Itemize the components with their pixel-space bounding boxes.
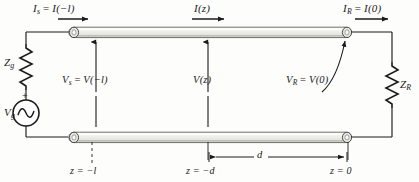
load-voltage-expression: V(0) — [309, 74, 328, 85]
source-impedance-zigzag — [20, 44, 32, 90]
line-current-expression: (z) — [198, 2, 210, 14]
source-current-equals: = — [40, 2, 52, 14]
load-impedance-subscript: R — [406, 83, 411, 92]
coord-d-label: z = −d — [186, 166, 215, 176]
source-emf-symbol: V — [4, 106, 11, 118]
source-emf-subscript: g — [11, 111, 15, 120]
line-current-label: I(z) — [194, 3, 210, 14]
line-voltage-label: V(z) — [193, 75, 211, 86]
source-current-expression: I(−l) — [52, 2, 74, 14]
source-impedance-label: Zg — [4, 57, 14, 70]
dimension-d-label: d — [257, 150, 262, 161]
line-voltage-symbol: V — [193, 74, 200, 85]
source-top-wire — [26, 32, 70, 44]
load-current-label: IR = I(0) — [343, 3, 381, 16]
source-impedance-subscript: g — [10, 61, 14, 70]
load-bottom-wire — [351, 108, 392, 137]
load-voltage-label: VR = V(0) — [286, 75, 329, 87]
load-current-equals: = — [352, 2, 364, 14]
load-impedance-label: ZR — [400, 79, 411, 92]
source-voltage-expression: V(−l) — [83, 74, 107, 85]
source-current-label: Is = I(−l) — [33, 3, 75, 16]
coord-source-label: z = −l — [70, 166, 96, 176]
source-voltage-label: Vs = V(−l) — [62, 75, 108, 87]
top-conductor — [69, 27, 352, 37]
circuit-schematic-svg — [0, 0, 419, 182]
ac-source-symbol — [13, 100, 39, 126]
load-top-wire — [351, 32, 392, 62]
source-voltage-equals: = — [72, 74, 84, 85]
polarity-plus-label: + — [22, 91, 28, 101]
load-voltage-symbol: V — [286, 74, 293, 85]
load-impedance-zigzag — [386, 62, 398, 108]
dimension-line-d — [209, 152, 347, 162]
bottom-conductor — [69, 132, 352, 142]
source-bottom-wire — [26, 126, 68, 137]
load-voltage-equals: = — [297, 74, 309, 85]
source-emf-label: Vg — [4, 107, 15, 120]
source-voltage-symbol: V — [62, 74, 69, 85]
load-current-expression: I(0) — [364, 2, 381, 14]
transmission-line-diagram: Is = I(−l) I(z) IR = I(0) Zg Vg + ZR Vs … — [0, 0, 419, 182]
coord-load-label: z = 0 — [330, 166, 352, 176]
line-voltage-expression: (z) — [200, 74, 212, 85]
